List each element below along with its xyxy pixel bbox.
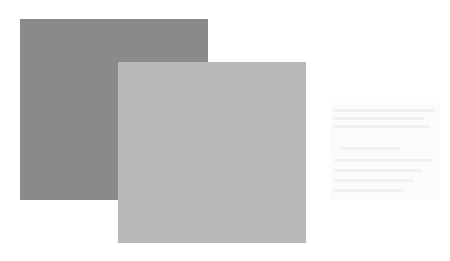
faint-line — [334, 125, 430, 128]
faint-line — [334, 169, 422, 172]
faint-line — [334, 179, 414, 182]
light-gray-square — [118, 62, 306, 243]
faint-line — [334, 109, 434, 112]
faint-text-box — [330, 103, 440, 200]
faint-line — [334, 189, 404, 192]
faint-line — [334, 159, 432, 162]
faint-line — [340, 147, 400, 150]
faint-line — [334, 117, 424, 120]
